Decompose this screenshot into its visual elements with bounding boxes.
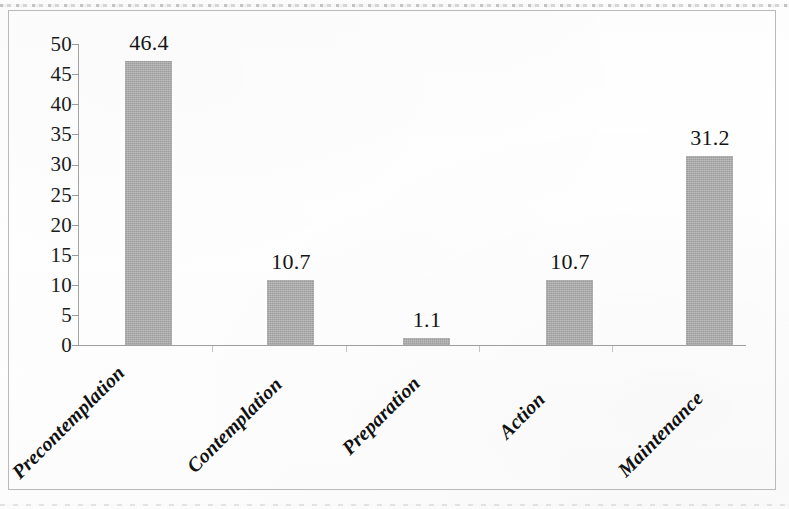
x-axis-category-label-maintenance: Maintenance (614, 387, 707, 480)
chart-page: 50 45 40 35 30 25 20 15 10 5 0 4 (0, 0, 789, 509)
bar-action[interactable] (546, 280, 593, 345)
y-axis-tick: 15 (28, 245, 72, 266)
y-axis-tick-mark (72, 165, 79, 166)
y-axis-tick: 5 (28, 305, 72, 326)
bar-chart-plot-area: 50 45 40 35 30 25 20 15 10 5 0 4 (0, 0, 789, 509)
x-axis-category-label-precontemplation: Precontemplation (8, 362, 128, 482)
y-axis-tick: 45 (28, 64, 72, 85)
y-axis-tick-label: 20 (32, 215, 72, 236)
y-axis-tick-mark (72, 315, 79, 316)
y-axis-tick-label: 0 (32, 335, 72, 356)
y-axis-tick-mark (72, 345, 79, 346)
x-axis-tick-mark (346, 346, 347, 352)
y-axis-tick-mark (72, 195, 79, 196)
y-axis-tick-mark (72, 74, 79, 75)
y-axis-tick-label: 25 (32, 185, 72, 206)
bar-value-label: 10.7 (529, 251, 611, 273)
y-axis-tick-label: 50 (32, 34, 72, 55)
y-axis-tick: 35 (28, 124, 72, 145)
x-axis-tick-mark (612, 346, 613, 352)
y-axis-tick: 0 (28, 335, 72, 356)
bar-value-label: 46.4 (108, 32, 190, 54)
y-axis-tick-label: 45 (32, 64, 72, 85)
y-axis-tick-label: 40 (32, 94, 72, 115)
y-axis-tick-label: 30 (32, 154, 72, 175)
y-axis-tick-label: 35 (32, 124, 72, 145)
y-axis-tick: 10 (28, 275, 72, 296)
y-axis-tick-mark (72, 255, 79, 256)
bar-contemplation[interactable] (267, 280, 314, 345)
y-axis-tick-label: 10 (32, 275, 72, 296)
x-axis-category-label-action: Action (495, 389, 548, 442)
bar-preparation[interactable] (403, 338, 450, 345)
x-axis-line (78, 345, 746, 346)
y-axis-tick-mark (72, 44, 79, 45)
bar-value-label: 10.7 (250, 251, 332, 273)
y-axis-tick-label: 5 (32, 305, 72, 326)
x-axis-category-label-preparation: Preparation (338, 372, 424, 458)
y-axis-tick-label: 15 (32, 245, 72, 266)
bar-value-label: 31.2 (669, 127, 751, 149)
y-axis-tick: 20 (28, 215, 72, 236)
y-axis-tick-mark (72, 134, 79, 135)
x-axis-tick-mark (212, 346, 213, 352)
bar-maintenance[interactable] (686, 156, 733, 345)
y-axis-tick: 25 (28, 185, 72, 206)
bar-value-label: 1.1 (386, 309, 468, 331)
y-axis-tick-mark (72, 225, 79, 226)
bar-precontemplation[interactable] (125, 61, 172, 345)
y-axis-tick: 50 (28, 34, 72, 55)
x-axis-tick-mark (479, 346, 480, 352)
y-axis-tick: 30 (28, 154, 72, 175)
y-axis-tick-mark (72, 104, 79, 105)
y-axis-tick: 40 (28, 94, 72, 115)
x-axis-category-label-contemplation: Contemplation (183, 374, 285, 476)
y-axis-tick-mark (72, 285, 79, 286)
